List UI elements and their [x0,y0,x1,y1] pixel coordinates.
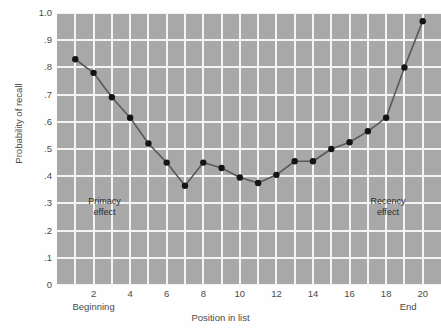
data-point-marker [237,174,243,180]
data-point-marker [273,172,279,178]
annotation-recency-effect: Recency effect [353,196,423,218]
y-axis-tick-labels: 1.0.9.8.7.6.5.4.3.2.10 [26,0,52,330]
data-point-marker [72,56,78,62]
data-point-marker [255,180,261,186]
data-point-marker [365,128,371,134]
y-axis-tick-label: .7 [28,90,52,99]
data-point-marker [182,183,188,189]
x-axis-tick-labels: 2468101214161820 [57,288,441,302]
x-axis-beginning-label: Beginning [59,301,129,312]
annotation-recency-line2: effect [377,207,399,217]
annotation-primacy-effect: Primacy effect [70,196,140,218]
data-point-marker [90,70,96,76]
x-axis-tick-label: 18 [371,288,401,299]
x-axis-tick-label: 12 [261,288,291,299]
data-point-marker [200,159,206,165]
data-point-marker [164,159,170,165]
x-axis-tick-label: 4 [115,288,145,299]
y-axis-tick-label: .2 [28,226,52,235]
annotation-primacy-line1: Primacy [88,196,121,206]
data-point-marker [218,165,224,171]
y-axis-title: Probability of recall [13,54,24,194]
data-series-line [57,13,441,285]
serial-position-curve-figure: 1.0.9.8.7.6.5.4.3.2.10 Probability of re… [0,0,441,330]
x-axis-tick-label: 20 [408,288,438,299]
x-axis-tick-label: 14 [298,288,328,299]
x-axis-tick-label: 10 [225,288,255,299]
data-point-marker [127,115,133,121]
y-axis-tick-label: 0 [28,280,52,289]
x-axis-tick-label: 8 [188,288,218,299]
annotation-recency-line1: Recency [370,196,405,206]
x-axis-tick-label: 2 [79,288,109,299]
data-point-marker [401,64,407,70]
y-axis-tick-label: .9 [28,35,52,44]
data-point-marker [310,158,316,164]
y-axis-tick-label: 1.0 [28,8,52,17]
y-axis-tick-label: .8 [28,62,52,71]
data-point-marker [383,115,389,121]
data-point-marker [328,146,334,152]
y-axis-tick-label: .4 [28,171,52,180]
data-point-marker [109,94,115,100]
data-point-marker [346,139,352,145]
series-polyline [75,21,422,186]
data-point-marker [145,140,151,146]
y-axis-tick-label: .3 [28,198,52,207]
data-point-marker [292,158,298,164]
x-axis-title: Position in list [0,312,441,323]
y-axis-tick-label: .6 [28,117,52,126]
x-axis-end-label: End [373,301,441,312]
data-point-marker [420,18,426,24]
plot-area: Primacy effect Recency effect [57,13,441,285]
x-axis-tick-label: 16 [335,288,365,299]
x-axis-tick-label: 6 [152,288,182,299]
annotation-primacy-line2: effect [94,207,116,217]
y-axis-tick-label: .5 [28,144,52,153]
y-axis-tick-label: .1 [28,253,52,262]
